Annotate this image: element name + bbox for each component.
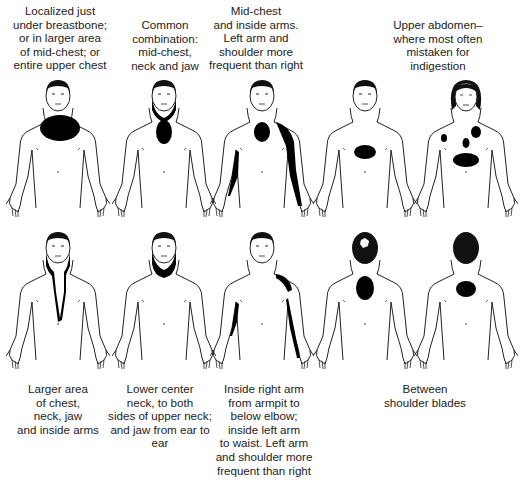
caption-chest-arms: Mid-chest and inside arms. Left arm and … bbox=[196, 4, 316, 72]
pain-area-between-shoulder-blades bbox=[356, 276, 374, 300]
figure-between-shoulders-male bbox=[313, 232, 417, 382]
figure-upper-abdomen bbox=[313, 80, 417, 230]
caption-upper-abdomen: Upper abdomen– where most often mistaken… bbox=[368, 18, 508, 72]
pain-area-center-chest bbox=[463, 138, 470, 148]
pain-area-right-arm bbox=[228, 150, 239, 196]
figure-between-shoulders-female bbox=[414, 232, 518, 382]
caption-chest: Localized just under breastbone; or in l… bbox=[2, 4, 118, 72]
pain-area-left-arm bbox=[286, 298, 300, 358]
pain-area-between-shoulder-blades bbox=[456, 281, 476, 297]
caption-between-shoulders: Between shoulder blades bbox=[360, 382, 490, 409]
figure-lower-neck-jaw bbox=[112, 232, 216, 382]
caption-lower-neck: Lower center neck, to both sides of uppe… bbox=[104, 382, 216, 450]
pain-area-mid-chest bbox=[254, 122, 270, 142]
pain-area-upper-chest bbox=[40, 115, 80, 141]
figure-chest bbox=[6, 80, 110, 230]
pain-area-right-arm bbox=[441, 134, 447, 142]
figure-inside-arms bbox=[210, 232, 314, 382]
pain-area-left-arm bbox=[276, 122, 302, 206]
figure-large-chest-neck-jaw-arms bbox=[6, 232, 110, 382]
figure-chest-arms bbox=[210, 80, 314, 230]
figure-female-multi bbox=[414, 80, 518, 230]
caption-large-chest: Larger area of chest, neck, jaw and insi… bbox=[6, 382, 110, 436]
pain-area-upper-abdomen bbox=[354, 145, 376, 159]
pain-area-left-shoulder bbox=[276, 274, 292, 292]
pain-area-left-chest bbox=[471, 126, 481, 138]
pain-area-upper-abdomen bbox=[453, 153, 479, 167]
pain-area-mid-chest bbox=[156, 120, 172, 144]
caption-inside-arms: Inside right arm from armpit to below el… bbox=[212, 382, 316, 477]
figure-chest-neck-jaw bbox=[112, 80, 216, 230]
